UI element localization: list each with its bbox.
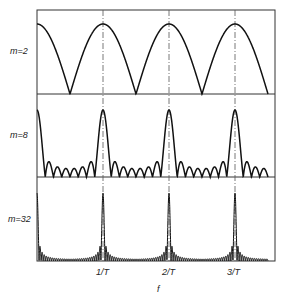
x-axis-label: f — [157, 284, 160, 294]
curve-m32 — [37, 193, 268, 261]
chart-plot-area — [0, 0, 284, 300]
gridlines — [103, 10, 235, 261]
curve-m8 — [37, 110, 268, 177]
curves — [37, 24, 268, 261]
x-tick-3: 3/T — [227, 267, 240, 277]
panel-label-m8: m=8 — [10, 130, 28, 140]
x-tick-1: 1/T — [96, 267, 109, 277]
panel-label-m2: m=2 — [10, 46, 28, 56]
curve-m2 — [37, 24, 268, 94]
x-tick-2: 2/T — [162, 267, 175, 277]
panel-label-m32: m=32 — [8, 214, 31, 224]
